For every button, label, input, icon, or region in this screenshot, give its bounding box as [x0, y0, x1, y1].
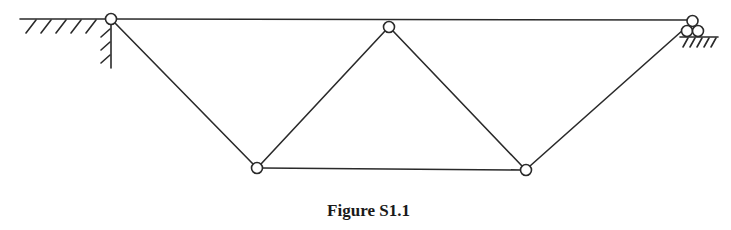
member-bottom-chord — [262, 168, 521, 170]
member-a-d — [115, 23, 253, 164]
member-b-e — [393, 31, 522, 166]
joint-a-node — [106, 14, 117, 25]
member-d-b — [261, 31, 385, 164]
truss-diagram — [0, 0, 731, 200]
member-top-chord — [116, 19, 687, 20]
truss-members — [115, 19, 687, 170]
figure-caption: Figure S1.1 — [0, 201, 731, 221]
member-e-c — [530, 30, 683, 166]
joint-d-node — [252, 163, 263, 174]
joint-e-node — [521, 165, 532, 176]
left-wall-hatching — [101, 25, 111, 68]
joint-b-node — [384, 22, 395, 33]
left-ground-hatching — [20, 19, 105, 33]
